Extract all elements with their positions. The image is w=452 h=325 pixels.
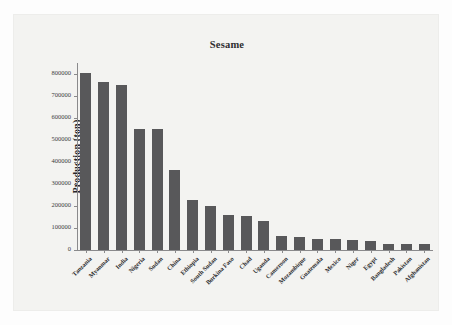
y-axis-tick-label: 800000 <box>52 69 72 76</box>
bar <box>116 85 127 250</box>
chart-panel: Sesame Production (ton) 0100000200000300… <box>13 14 439 311</box>
x-axis-tick-mark <box>282 250 283 253</box>
bar <box>276 236 287 250</box>
x-axis-tick-mark <box>193 250 194 253</box>
y-axis-tick-label: 300000 <box>52 179 72 186</box>
y-axis-tick-label: 400000 <box>52 157 72 164</box>
bar-slot <box>169 63 180 250</box>
bar <box>98 82 109 250</box>
y-axis-tick-label: 0 <box>68 245 71 252</box>
bar-series <box>77 63 433 250</box>
bar <box>294 237 305 250</box>
bar-slot <box>241 63 252 250</box>
x-axis-tick-mark <box>300 250 301 253</box>
bar-slot <box>187 63 198 250</box>
x-axis-tick-mark <box>139 250 140 253</box>
x-axis-tick-mark <box>246 250 247 253</box>
x-axis-tick-mark <box>228 250 229 253</box>
bar <box>169 170 180 250</box>
bar-slot <box>401 63 412 250</box>
x-axis-tick-mark <box>157 250 158 253</box>
y-axis-label: Production (ton) <box>71 0 85 63</box>
bar-slot <box>134 63 145 250</box>
plot-area: Production (ton) 01000002000003000004000… <box>77 63 432 250</box>
y-axis-tick-label: 200000 <box>52 201 72 208</box>
bar <box>330 239 341 250</box>
x-axis-tick-mark <box>371 250 372 253</box>
bar-slot <box>152 63 163 250</box>
bar-slot <box>419 63 430 250</box>
bar <box>187 200 198 250</box>
bar <box>223 215 234 250</box>
bar <box>152 129 163 250</box>
x-axis-line <box>77 250 433 251</box>
y-axis-tick-label: 100000 <box>52 223 72 230</box>
bar <box>241 216 252 250</box>
x-axis-tick-mark <box>335 250 336 253</box>
bar-slot <box>205 63 216 250</box>
y-axis-tick-label: 600000 <box>52 113 72 120</box>
bar <box>312 239 323 250</box>
bar <box>365 241 376 250</box>
bar <box>347 240 358 250</box>
bar-slot <box>312 63 323 250</box>
bar <box>258 221 269 250</box>
y-axis-tick-label: 700000 <box>52 91 72 98</box>
bar-slot <box>80 63 91 250</box>
bar <box>205 206 216 250</box>
bar-slot <box>276 63 287 250</box>
x-axis-tick-mark <box>104 250 105 253</box>
bar <box>134 129 145 250</box>
x-axis-tick-mark <box>211 250 212 253</box>
bar-slot <box>98 63 109 250</box>
x-axis-tick-mark <box>389 250 390 253</box>
bar-slot <box>330 63 341 250</box>
x-axis-tick-mark <box>317 250 318 253</box>
bar-slot <box>347 63 358 250</box>
y-axis-tick-mark <box>74 250 77 251</box>
bar-slot <box>116 63 127 250</box>
bar-slot <box>294 63 305 250</box>
x-axis-tick-mark <box>264 250 265 253</box>
x-axis-tick-mark <box>122 250 123 253</box>
bar-slot <box>365 63 376 250</box>
bar-slot <box>383 63 394 250</box>
bar <box>80 73 91 250</box>
y-axis-tick-label: 500000 <box>52 135 72 142</box>
bar-slot <box>258 63 269 250</box>
chart-figure: Sesame Production (ton) 0100000200000300… <box>0 0 452 325</box>
x-axis-tick-mark <box>406 250 407 253</box>
x-axis-tick-mark <box>353 250 354 253</box>
x-axis-tick-mark <box>175 250 176 253</box>
bar-slot <box>223 63 234 250</box>
x-axis-tick-mark <box>86 250 87 253</box>
x-axis-tick-mark <box>424 250 425 253</box>
